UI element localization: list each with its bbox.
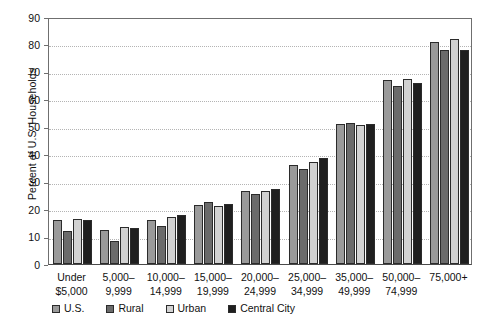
bar[interactable] [261,191,270,264]
y-axis-tick-label: 70 [2,67,40,77]
x-axis-tick-label-line: 74,999 [372,285,431,299]
y-axis-tick-label: 90 [2,13,40,23]
plot-area [48,18,472,265]
bar-group [237,19,284,264]
bar[interactable] [120,227,129,264]
bar-group [143,19,190,264]
legend-item-label: Urban [178,303,207,314]
bar[interactable] [251,194,260,264]
y-axis-tick-label: 0 [2,260,40,270]
x-axis-tick-label: 75,000+ [419,271,478,285]
bar[interactable] [73,219,82,264]
bar-group [426,19,473,264]
bar[interactable] [460,50,469,264]
y-axis-tick-label: 20 [2,205,40,215]
bar[interactable] [194,205,203,264]
y-axis-tick-label: 60 [2,95,40,105]
bar[interactable] [147,220,156,264]
bar[interactable] [319,158,328,264]
bar[interactable] [241,191,250,264]
bar[interactable] [157,226,166,264]
bar[interactable] [413,83,422,264]
bar[interactable] [110,241,119,264]
y-axis-tick-label: 50 [2,122,40,132]
bar[interactable] [299,169,308,264]
bar-group [285,19,332,264]
bar-group [49,19,96,264]
legend-item-label: Rural [118,303,143,314]
bar[interactable] [430,42,439,264]
bar[interactable] [450,39,459,264]
x-axis-tick-label-line: 75,000+ [419,271,478,285]
bar[interactable] [167,217,176,264]
bar[interactable] [130,228,139,264]
bar[interactable] [336,124,345,264]
bar-group [190,19,237,264]
bar[interactable] [356,125,365,264]
legend-swatch-icon [166,305,174,313]
bar[interactable] [309,162,318,264]
y-axis-tick-label: 80 [2,40,40,50]
bar-group [332,19,379,264]
bar-group [379,19,426,264]
y-axis-tick-label: 40 [2,150,40,160]
bar[interactable] [53,220,62,264]
bar[interactable] [63,231,72,264]
bar[interactable] [224,204,233,264]
y-axis-tick-label: 30 [2,177,40,187]
legend-swatch-icon [52,305,60,313]
bar[interactable] [366,124,375,264]
bar[interactable] [214,206,223,264]
legend-swatch-icon [228,305,236,313]
bar[interactable] [289,165,298,264]
bar-chart: Percent of U.S. Households 0102030405060… [0,0,487,327]
legend-item[interactable]: Urban [166,303,207,314]
y-axis-tick-mark [44,265,48,266]
bar[interactable] [177,215,186,264]
bar[interactable] [346,123,355,264]
legend-item-label: Central City [240,303,295,314]
bar[interactable] [393,86,402,264]
legend-item[interactable]: U.S. [52,303,84,314]
bar[interactable] [383,80,392,264]
y-axis-tick-label: 10 [2,232,40,242]
bar[interactable] [100,230,109,264]
bar[interactable] [204,202,213,264]
bar[interactable] [83,220,92,264]
bar-group [96,19,143,264]
legend: U.S.RuralUrbanCentral City [52,303,317,314]
bar[interactable] [271,189,280,264]
bar[interactable] [440,50,449,264]
legend-swatch-icon [106,305,114,313]
legend-item-label: U.S. [64,303,84,314]
legend-item[interactable]: Rural [106,303,143,314]
legend-item[interactable]: Central City [228,303,295,314]
bar[interactable] [403,79,412,264]
